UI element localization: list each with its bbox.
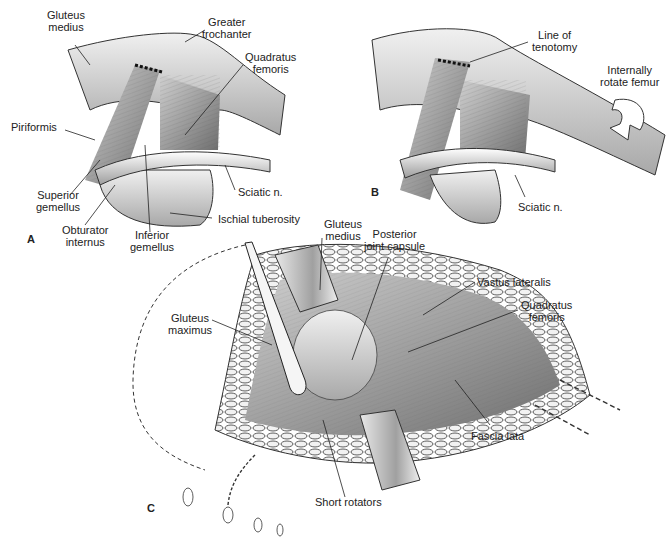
label-quadratus-femoris-c: Quadratus femoris bbox=[521, 299, 572, 323]
label-obturator-internus: Obturator internus bbox=[62, 224, 108, 248]
label-ischial-tuberosity: Ischial tuberosity bbox=[218, 213, 300, 225]
label-gluteus-medius-a: Gluteus medius bbox=[47, 9, 85, 33]
anatomy-illustration bbox=[0, 0, 670, 549]
label-gluteus-maximus: Gluteus maximus bbox=[168, 312, 212, 336]
label-quadratus-femoris-a: Quadratus femoris bbox=[245, 51, 296, 75]
label-short-rotators: Short rotators bbox=[315, 496, 382, 508]
label-posterior-joint-capsule: Posterior joint capsule bbox=[364, 228, 425, 252]
panel-b-drawing bbox=[372, 29, 665, 224]
label-internally-rotate-femur: Internally rotate femur bbox=[600, 64, 659, 88]
label-vastus-lateralis: Vastus lateralis bbox=[477, 276, 551, 288]
label-gluteus-medius-c: Gluteus medius bbox=[324, 218, 362, 242]
label-piriformis: Piriformis bbox=[11, 121, 57, 133]
label-inferior-gemellus: Inferior gemellus bbox=[130, 229, 174, 253]
label-superior-gemellus: Superior gemellus bbox=[36, 189, 80, 213]
label-fascia-lata: Fascia lata bbox=[471, 430, 524, 442]
label-greater-trochanter: Greater trochanter bbox=[202, 16, 252, 40]
label-line-of-tenotomy: Line of tenotomy bbox=[532, 29, 577, 53]
label-sciatic-n-b: Sciatic n. bbox=[518, 201, 563, 213]
panel-letter-b: B bbox=[371, 186, 379, 198]
panel-letter-a: A bbox=[27, 233, 35, 245]
panel-letter-c: C bbox=[147, 502, 155, 514]
label-sciatic-n-a: Sciatic n. bbox=[238, 186, 283, 198]
